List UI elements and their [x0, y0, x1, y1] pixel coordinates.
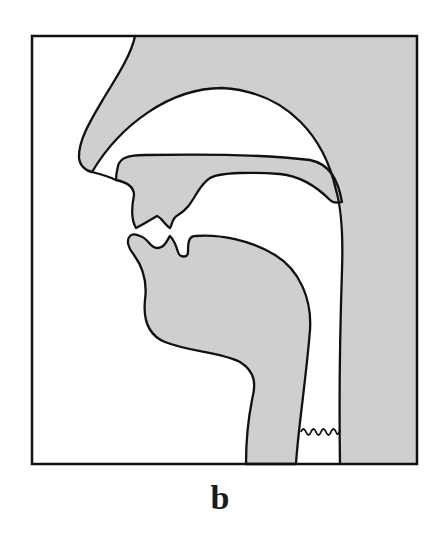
vocal-tract-diagram — [0, 0, 440, 544]
figure-caption: b — [0, 478, 440, 518]
